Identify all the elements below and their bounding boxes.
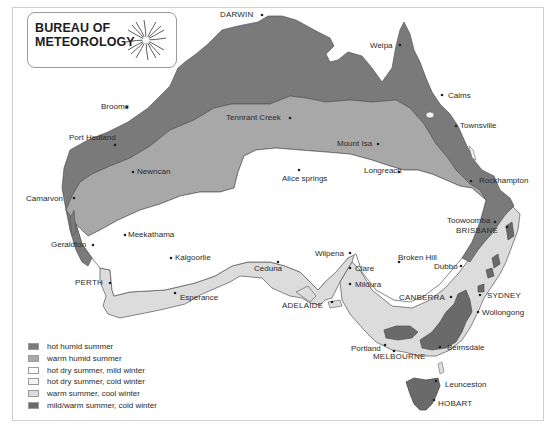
- label-newman: Newncan: [137, 167, 170, 176]
- swatch-hot-dry-mild: [28, 367, 39, 374]
- legend-item-mild-cold: mild/warm summer, cold winter: [28, 399, 157, 411]
- legend-label: hot dry summer, mild winter: [47, 366, 145, 375]
- label-port-hedland: Port Hedland: [69, 133, 116, 142]
- label-perth: PERTH: [75, 278, 103, 287]
- legend-label: hot dry summer, cold winter: [47, 377, 145, 386]
- legend-label: hot humid summer: [47, 342, 113, 351]
- label-hobart: HOBART: [438, 399, 472, 408]
- legend-item-warm-cool: warm summer, cool winter: [28, 388, 157, 400]
- kangaroo-island: [328, 300, 342, 308]
- label-kalgoorlie: Kalgoorlie: [175, 253, 211, 262]
- flinders-island: [438, 362, 444, 374]
- label-meekatharra: Meekathama: [128, 230, 174, 239]
- logo-line-1: BUREAU OF: [35, 21, 135, 35]
- label-launceston: Leunceston: [445, 380, 486, 389]
- label-wollongong: Wollongong: [482, 308, 524, 317]
- label-brisbane: BRISBANE: [456, 226, 498, 235]
- label-alice-springs: Alice springs: [282, 174, 327, 183]
- label-adelaide: ADELAIDE: [282, 301, 323, 310]
- swatch-warm-humid: [28, 355, 39, 362]
- label-clare: Clare: [355, 264, 374, 273]
- legend-label: mild/warm summer, cold winter: [47, 401, 157, 410]
- label-toowoomba: Toowoomba: [447, 216, 490, 225]
- tasmania: [406, 378, 440, 410]
- swatch-hot-humid: [28, 343, 39, 350]
- label-ceduna: Ceduna: [254, 264, 282, 273]
- label-sydney: SYDNEY: [487, 291, 521, 300]
- swatch-warm-cool: [28, 390, 39, 397]
- label-darwin: DARWIN: [220, 10, 254, 19]
- legend: hot humid summer warm humid summer hot d…: [28, 341, 157, 411]
- label-mildura: Mildura: [355, 280, 381, 289]
- label-townsville: Townsville: [460, 121, 496, 130]
- label-canberra: CANBERRA: [399, 293, 445, 302]
- region-hot-dry-mild: [223, 318, 250, 328]
- label-melbourne: MELBOURNE: [373, 352, 425, 361]
- label-rockhampton: Rockhampton: [479, 176, 528, 185]
- bureau-logo: BUREAU OF METEOROLOGY: [27, 12, 177, 68]
- label-carnarvon: Camarvon: [26, 194, 63, 203]
- label-dubbo: Dubbo: [434, 262, 458, 271]
- label-weipa: Weipa: [370, 41, 393, 50]
- label-mount-isa: Mount Isa: [337, 139, 372, 148]
- legend-label: warm summer, cool winter: [47, 389, 140, 398]
- label-longreach: Longreach: [364, 166, 402, 175]
- swatch-hot-dry-cold: [28, 378, 39, 385]
- label-geraldton: Geraldton: [51, 240, 86, 249]
- label-broome: Broome: [101, 102, 129, 111]
- label-cairns: Caims: [448, 91, 471, 100]
- swatch-mild-cold: [28, 402, 39, 409]
- label-wilpena: Wilpena: [315, 249, 344, 258]
- legend-item-warm-humid: warm humid summer: [28, 353, 157, 365]
- label-broken-hill: Broken Hill: [398, 253, 437, 262]
- label-beimsdale: Beimsdale: [447, 343, 484, 352]
- legend-label: warm humid summer: [47, 354, 122, 363]
- label-tennant-creek: Tennrant Creek: [226, 113, 281, 122]
- logo-line-2: METEOROLOGY: [35, 35, 135, 49]
- cairns-lake: [426, 112, 434, 118]
- logo-text: BUREAU OF METEOROLOGY: [35, 21, 135, 49]
- legend-item-hot-dry-cold: hot dry summer, cold winter: [28, 376, 157, 388]
- legend-item-hot-humid: hot humid summer: [28, 341, 157, 353]
- spiral-swirl-icon: [124, 18, 168, 62]
- legend-item-hot-dry-mild: hot dry summer, mild winter: [28, 364, 157, 376]
- label-esperance: Esperance: [180, 293, 218, 302]
